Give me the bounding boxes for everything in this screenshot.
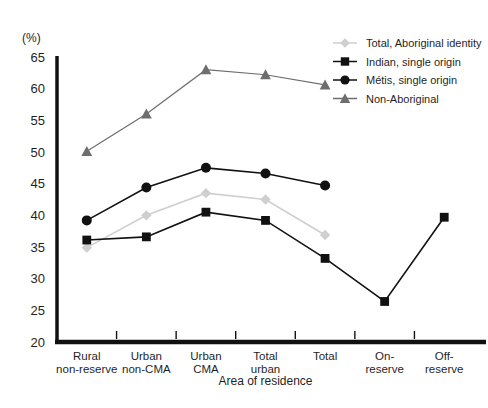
x-axis-tick-label-line: CMA — [193, 363, 219, 375]
x-axis-tick-label: Totalurban — [251, 350, 280, 375]
x-axis-tick-label: Total — [313, 350, 337, 362]
data-point-marker — [261, 216, 270, 225]
data-series — [81, 64, 330, 156]
data-point-marker — [141, 210, 151, 220]
chart-container: (%)20253035404550556065Ruralnon-reserveU… — [0, 0, 488, 408]
data-line — [87, 70, 325, 152]
data-point-marker — [380, 297, 389, 306]
x-axis-tick-label-line: non-reserve — [56, 363, 117, 375]
legend-item[interactable]: Indian, single origin — [333, 56, 461, 68]
y-axis-tick-label: 50 — [31, 145, 45, 160]
legend-item-label: Indian, single origin — [366, 56, 461, 68]
legend-item[interactable]: Total, Aboriginal identity — [333, 37, 482, 49]
x-axis-title: Area of residence — [218, 374, 312, 388]
data-series — [82, 188, 331, 253]
x-axis-tick-label: Urbannon-CMA — [122, 350, 171, 375]
y-axis-tick-label: 45 — [31, 176, 45, 191]
data-point-marker — [321, 254, 330, 263]
x-axis-tick-label: Off-reserve — [425, 350, 463, 375]
y-axis-tick-label: 20 — [31, 335, 45, 350]
x-axis-tick-label: UrbanCMA — [190, 350, 221, 375]
legend-item[interactable]: Non-Aboriginal — [333, 93, 439, 105]
data-point-marker — [82, 215, 92, 225]
y-axis-tick-label: 40 — [31, 208, 45, 223]
legend-item-label: Métis, single origin — [366, 74, 457, 86]
x-axis-tick-label-line: Total — [313, 350, 337, 362]
chart-legend: Total, Aboriginal identityIndian, single… — [333, 37, 482, 105]
data-line — [87, 212, 444, 301]
x-axis-tick-label-line: Rural — [73, 350, 100, 362]
data-point-marker — [201, 188, 211, 198]
data-series — [82, 208, 448, 306]
data-point-marker — [320, 230, 330, 240]
data-point-marker — [81, 146, 92, 156]
y-axis-tick-label: 65 — [31, 50, 45, 65]
y-axis-tick-label: 35 — [31, 240, 45, 255]
x-axis-tick-label-line: reserve — [425, 363, 463, 375]
y-axis-tick-label: 60 — [31, 81, 45, 96]
y-axis-tick-label: 30 — [31, 271, 45, 286]
legend-marker — [341, 57, 349, 65]
legend-item-label: Non-Aboriginal — [366, 93, 439, 105]
y-axis-tick-label: 55 — [31, 113, 45, 128]
data-point-marker — [82, 236, 91, 245]
y-axis-unit-label: (%) — [22, 31, 41, 45]
data-point-marker — [202, 208, 211, 217]
legend-marker — [340, 75, 349, 84]
data-point-marker — [141, 109, 152, 119]
data-point-marker — [440, 213, 449, 222]
x-axis-tick-label-line: Off- — [435, 350, 454, 362]
y-axis-tick-label: 25 — [31, 303, 45, 318]
data-point-marker — [260, 194, 270, 204]
legend-marker — [340, 38, 350, 48]
line-chart: (%)20253035404550556065Ruralnon-reserveU… — [0, 0, 488, 408]
x-axis-tick-label-line: non-CMA — [122, 363, 171, 375]
data-point-marker — [261, 169, 271, 179]
data-point-marker — [142, 232, 151, 241]
x-axis-tick-label-line: Total — [253, 350, 277, 362]
x-axis-tick-label-line: On- — [375, 350, 394, 362]
x-axis-tick-label-line: Urban — [190, 350, 221, 362]
legend-item-label: Total, Aboriginal identity — [366, 37, 482, 49]
data-point-marker — [201, 64, 212, 74]
data-point-marker — [201, 163, 211, 173]
legend-item[interactable]: Métis, single origin — [333, 74, 457, 86]
x-axis-tick-label: On-reserve — [365, 350, 403, 375]
x-axis-tick-label-line: reserve — [365, 363, 403, 375]
x-axis-tick-label: Ruralnon-reserve — [56, 350, 117, 375]
data-point-marker — [320, 181, 330, 191]
x-axis-tick-label-line: Urban — [131, 350, 162, 362]
data-point-marker — [141, 182, 151, 192]
